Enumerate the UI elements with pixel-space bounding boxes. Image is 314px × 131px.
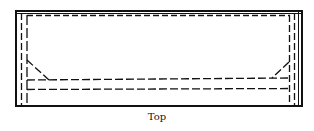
outer-frame (16, 11, 302, 106)
right-diagonal (272, 62, 289, 78)
view-caption: Top (0, 111, 314, 122)
upper-dashed-rail (27, 78, 289, 80)
left-diagonal (27, 60, 49, 80)
lower-dashed-rail (27, 89, 289, 90)
